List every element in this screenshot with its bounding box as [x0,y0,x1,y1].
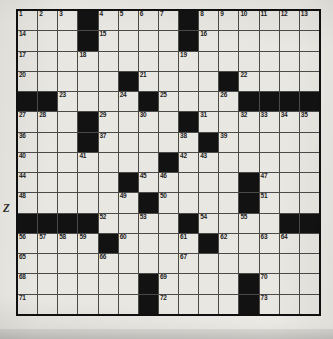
grid-answer-cell[interactable] [199,274,218,293]
grid-answer-cell[interactable]: 73 [260,295,279,314]
grid-answer-cell[interactable]: 12 [280,11,299,30]
grid-answer-cell[interactable] [219,214,238,233]
grid-answer-cell[interactable] [159,52,178,71]
grid-answer-cell[interactable]: 16 [199,31,218,50]
grid-answer-cell[interactable] [219,295,238,314]
grid-answer-cell[interactable] [300,193,319,212]
grid-answer-cell[interactable]: 33 [260,112,279,131]
grid-answer-cell[interactable] [280,133,299,152]
grid-answer-cell[interactable] [38,52,57,71]
grid-answer-cell[interactable] [58,112,77,131]
grid-answer-cell[interactable] [99,173,118,192]
grid-answer-cell[interactable]: 30 [139,112,158,131]
grid-answer-cell[interactable]: 10 [239,11,258,30]
grid-answer-cell[interactable] [300,274,319,293]
grid-answer-cell[interactable] [260,31,279,50]
grid-answer-cell[interactable] [179,274,198,293]
grid-answer-cell[interactable] [300,254,319,273]
grid-answer-cell[interactable] [139,234,158,253]
grid-answer-cell[interactable] [260,133,279,152]
grid-answer-cell[interactable]: 42 [179,153,198,172]
grid-answer-cell[interactable]: 26 [219,92,238,111]
grid-answer-cell[interactable] [300,295,319,314]
grid-answer-cell[interactable] [38,133,57,152]
grid-answer-cell[interactable]: 17 [18,52,37,71]
grid-answer-cell[interactable] [239,153,258,172]
grid-answer-cell[interactable] [38,193,57,212]
grid-answer-cell[interactable] [78,193,97,212]
grid-answer-cell[interactable]: 40 [18,153,37,172]
grid-answer-cell[interactable]: 35 [300,112,319,131]
grid-answer-cell[interactable] [179,193,198,212]
grid-answer-cell[interactable]: 1 [18,11,37,30]
grid-answer-cell[interactable] [119,153,138,172]
grid-answer-cell[interactable]: 60 [119,234,138,253]
grid-answer-cell[interactable] [280,173,299,192]
grid-answer-cell[interactable] [300,72,319,91]
grid-answer-cell[interactable] [280,153,299,172]
grid-answer-cell[interactable] [38,274,57,293]
grid-answer-cell[interactable]: 36 [18,133,37,152]
grid-answer-cell[interactable] [99,153,118,172]
grid-answer-cell[interactable] [99,72,118,91]
grid-answer-cell[interactable]: 29 [99,112,118,131]
grid-answer-cell[interactable]: 28 [38,112,57,131]
grid-answer-cell[interactable] [78,173,97,192]
grid-answer-cell[interactable] [58,173,77,192]
grid-answer-cell[interactable]: 14 [18,31,37,50]
grid-answer-cell[interactable]: 18 [78,52,97,71]
grid-answer-cell[interactable] [300,31,319,50]
grid-answer-cell[interactable] [280,274,299,293]
grid-answer-cell[interactable] [99,193,118,212]
grid-answer-cell[interactable]: 41 [78,153,97,172]
grid-answer-cell[interactable] [159,31,178,50]
grid-answer-cell[interactable]: 20 [18,72,37,91]
grid-answer-cell[interactable] [99,295,118,314]
grid-answer-cell[interactable] [78,295,97,314]
grid-answer-cell[interactable] [199,173,218,192]
grid-answer-cell[interactable] [139,133,158,152]
grid-answer-cell[interactable] [260,52,279,71]
grid-answer-cell[interactable] [280,193,299,212]
grid-answer-cell[interactable]: 7 [159,11,178,30]
grid-answer-cell[interactable]: 46 [159,173,178,192]
grid-answer-cell[interactable] [119,31,138,50]
grid-answer-cell[interactable]: 63 [260,234,279,253]
grid-answer-cell[interactable] [199,193,218,212]
grid-answer-cell[interactable]: 34 [280,112,299,131]
grid-answer-cell[interactable] [179,72,198,91]
grid-answer-cell[interactable] [58,52,77,71]
grid-answer-cell[interactable] [179,92,198,111]
grid-answer-cell[interactable] [260,153,279,172]
grid-answer-cell[interactable] [58,274,77,293]
grid-answer-cell[interactable] [199,52,218,71]
grid-answer-cell[interactable]: 2 [38,11,57,30]
grid-answer-cell[interactable]: 64 [280,234,299,253]
grid-answer-cell[interactable] [199,254,218,273]
grid-answer-cell[interactable]: 52 [99,214,118,233]
grid-answer-cell[interactable] [119,52,138,71]
grid-answer-cell[interactable]: 55 [239,214,258,233]
grid-answer-cell[interactable] [38,173,57,192]
grid-answer-cell[interactable]: 62 [219,234,238,253]
grid-answer-cell[interactable] [159,254,178,273]
grid-answer-cell[interactable]: 6 [139,11,158,30]
grid-answer-cell[interactable] [78,254,97,273]
grid-answer-cell[interactable] [300,173,319,192]
grid-answer-cell[interactable] [78,92,97,111]
grid-answer-cell[interactable]: 43 [199,153,218,172]
grid-answer-cell[interactable] [219,173,238,192]
grid-answer-cell[interactable]: 50 [159,193,178,212]
grid-answer-cell[interactable]: 38 [179,133,198,152]
grid-answer-cell[interactable]: 65 [18,254,37,273]
grid-answer-cell[interactable]: 24 [119,92,138,111]
grid-answer-cell[interactable]: 48 [18,193,37,212]
grid-answer-cell[interactable] [260,72,279,91]
grid-answer-cell[interactable] [300,133,319,152]
grid-answer-cell[interactable]: 4 [99,11,118,30]
grid-answer-cell[interactable] [239,31,258,50]
grid-answer-cell[interactable] [58,133,77,152]
grid-answer-cell[interactable]: 70 [260,274,279,293]
grid-answer-cell[interactable] [159,133,178,152]
grid-answer-cell[interactable] [58,254,77,273]
